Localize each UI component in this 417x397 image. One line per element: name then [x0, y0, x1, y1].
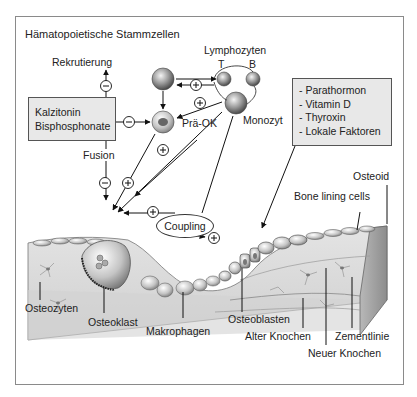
inhibitors-box: Kalzitonin Bisphosphonate	[28, 97, 116, 141]
monocyte-icon	[225, 92, 247, 114]
label-alter-knochen: Alter Knochen	[245, 330, 311, 342]
label-osteozyten: Osteozyten	[25, 302, 78, 314]
t-lymphocyte-icon	[217, 72, 231, 86]
label-prae-ok: Prä-OK	[182, 117, 217, 129]
label-neuer-knochen: Neuer Knochen	[308, 347, 381, 359]
label-bone-lining-cells: Bone lining cells	[294, 190, 370, 202]
label-osteoid: Osteoid	[353, 170, 389, 182]
inhibitor-bisphosphonate: Bisphosphonate	[35, 120, 109, 134]
bone-slab	[28, 226, 387, 340]
label-monozyt: Monozyt	[243, 114, 283, 126]
stem-cell-icon	[152, 68, 174, 90]
factor-lokale-faktoren: - Lokale Faktoren	[299, 125, 385, 139]
factor-parathormon: - Parathormon	[299, 84, 385, 98]
label-coupling: Coupling	[164, 220, 205, 232]
label-osteoblasten: Osteoblasten	[228, 313, 290, 325]
label-makrophagen: Makrophagen	[146, 325, 210, 337]
label-osteoklast: Osteoklast	[88, 316, 138, 328]
label-fusion: Fusion	[83, 149, 115, 161]
factor-thyroxin: - Thyroxin	[299, 111, 385, 125]
label-rekrutierung: Rekrutierung	[52, 56, 112, 68]
label-b: B	[249, 58, 256, 70]
inhibitor-kalzitonin: Kalzitonin	[35, 106, 109, 120]
coupling-oval: Coupling	[156, 214, 214, 238]
label-zementlinie: Zementlinie	[335, 330, 389, 342]
factor-vitamin-d: - Vitamin D	[299, 98, 385, 112]
diagram-title: Hämatopoietische Stammzellen	[25, 28, 180, 40]
label-t: T	[218, 58, 224, 70]
factors-box: - Parathormon - Vitamin D - Thyroxin - L…	[292, 78, 392, 146]
b-lymphocyte-icon	[246, 72, 260, 86]
label-lymphozyten: Lymphozyten	[204, 44, 266, 56]
